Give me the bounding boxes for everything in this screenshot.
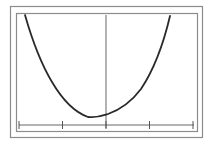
plot-svg <box>0 0 208 143</box>
function-curve <box>25 15 170 117</box>
calculator-graph-screen <box>0 0 208 143</box>
